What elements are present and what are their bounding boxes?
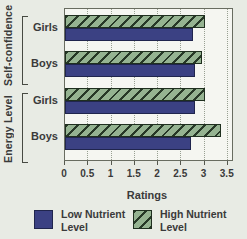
section-label-self-confidence: Self-confidence — [2, 10, 17, 86]
category-label-Energy Level-Boys: Boys — [16, 130, 58, 142]
x-tick-3.5 — [227, 161, 228, 165]
x-tick-2.5 — [180, 161, 181, 165]
x-axis-title: Ratings — [64, 189, 230, 201]
x-tick-1 — [111, 161, 112, 165]
x-tick-label-2.5: 2.5 — [167, 168, 193, 179]
bar-chart-figure: Self-confidence Energy Level Ratings Low… — [0, 0, 247, 239]
x-tick-1.5 — [134, 161, 135, 165]
bar-low-Energy Level-Girls — [65, 101, 195, 114]
x-tick-3 — [204, 161, 205, 165]
x-tick-label-0.5: 0.5 — [74, 168, 100, 179]
bar-low-Energy Level-Boys — [65, 137, 191, 150]
category-label-Self-confidence-Boys: Boys — [16, 57, 58, 69]
legend-swatch-high-nutrient — [133, 210, 152, 229]
legend-label-low-line1: Low Nutrient — [61, 208, 125, 221]
x-tick-2 — [157, 161, 158, 165]
bar-high-Self-confidence-Girls — [65, 15, 205, 28]
section-label-energy-level: Energy Level — [2, 94, 17, 164]
legend-label-high-line1: High Nutrient — [160, 208, 227, 221]
x-tick-0.5 — [87, 161, 88, 165]
x-tick-label-3.5: 3.5 — [214, 168, 240, 179]
x-tick-0 — [64, 161, 65, 165]
x-tick-label-1.5: 1.5 — [121, 168, 147, 179]
bar-low-Self-confidence-Girls — [65, 28, 193, 41]
category-label-Self-confidence-Girls: Girls — [16, 21, 58, 33]
bar-high-Energy Level-Girls — [65, 88, 205, 101]
x-tick-label-2: 2 — [144, 168, 170, 179]
legend-label-low-nutrient: Low Nutrient Level — [61, 208, 125, 234]
x-tick-label-0: 0 — [51, 168, 77, 179]
legend-label-high-nutrient: High Nutrient Level — [160, 208, 227, 234]
bar-low-Self-confidence-Boys — [65, 64, 195, 77]
bar-high-Self-confidence-Boys — [65, 51, 202, 64]
x-tick-label-1: 1 — [98, 168, 124, 179]
legend-label-low-line2: Level — [61, 221, 125, 234]
gridline-3 — [204, 9, 205, 160]
bar-high-Energy Level-Boys — [65, 124, 221, 137]
category-label-Energy Level-Girls: Girls — [16, 94, 58, 106]
x-tick-label-3: 3 — [191, 168, 217, 179]
gridline-3.5 — [227, 9, 228, 160]
legend-swatch-low-nutrient — [34, 210, 53, 229]
plot-area — [64, 8, 233, 161]
legend-label-high-line2: Level — [160, 221, 227, 234]
